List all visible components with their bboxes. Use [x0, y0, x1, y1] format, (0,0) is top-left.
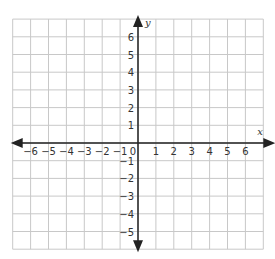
- y-tick-label: −4: [119, 209, 134, 220]
- y-axis-label: y: [144, 17, 151, 28]
- y-tick-label: 4: [128, 67, 134, 78]
- x-tick-label: 4: [206, 146, 212, 157]
- x-tick-label: −4: [59, 146, 74, 157]
- y-tick-label: 1: [128, 120, 134, 131]
- y-tick-label: −1: [119, 156, 134, 167]
- y-axis-down-arrow-icon: [133, 240, 143, 252]
- y-tick-label: −2: [119, 173, 134, 184]
- y-tick-label: −3: [119, 191, 134, 202]
- y-tick-label: −5: [119, 227, 134, 238]
- x-tick-label: −6: [23, 146, 38, 157]
- coordinate-plane: xy−6−5−4−3−2−10123456654321−1−2−3−4−5: [0, 0, 275, 259]
- x-axis-right-arrow-icon: [263, 138, 275, 148]
- x-axis-label: x: [257, 126, 263, 137]
- y-tick-label: 5: [128, 50, 134, 61]
- y-tick-label: 6: [128, 32, 134, 43]
- x-tick-label: 3: [189, 146, 195, 157]
- y-tick-label: 2: [128, 103, 134, 114]
- x-tick-label: 1: [153, 146, 159, 157]
- axes: [11, 15, 275, 252]
- y-axis-up-arrow-icon: [133, 15, 143, 27]
- x-tick-label: 6: [242, 146, 248, 157]
- x-tick-label: −5: [41, 146, 56, 157]
- y-tick-label: 3: [128, 85, 134, 96]
- x-tick-label: 5: [224, 146, 230, 157]
- x-tick-label: −3: [77, 146, 92, 157]
- x-tick-label: −2: [95, 146, 110, 157]
- x-tick-label: 2: [171, 146, 177, 157]
